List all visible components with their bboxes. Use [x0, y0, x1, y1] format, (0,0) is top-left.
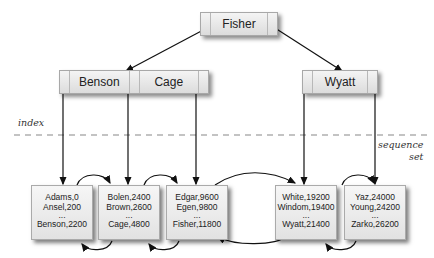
index-label: index: [18, 117, 44, 128]
sequence-block-4: White,19200 Windom,19400 ... Wyatt,21400: [275, 185, 337, 240]
ellipsis: ...: [276, 212, 336, 219]
sequence-block-2: Bolen,2400 Brown,2600 ... Cage,4800: [98, 185, 160, 240]
sequence-set-label: sequence set: [378, 139, 423, 163]
record: Yaz,24000: [345, 192, 405, 202]
sequence-block-1: Adams,0 Ansel,200 ... Benson,2200: [31, 185, 93, 240]
record: Zarko,26200: [345, 219, 405, 229]
index-key: Benson: [70, 71, 129, 93]
pointer-slot: [129, 71, 140, 93]
record: Benson,2200: [32, 219, 92, 229]
index-key: Cage: [140, 71, 199, 93]
ellipsis: ...: [32, 212, 92, 219]
pointer-slot: [198, 71, 208, 93]
record: Wyatt,21400: [276, 219, 336, 229]
record: Fisher,11800: [167, 219, 227, 229]
ellipsis: ...: [345, 212, 405, 219]
pointer-slot: [267, 13, 277, 35]
index-node-right: Wyatt: [302, 70, 378, 94]
pointer-slot: [303, 71, 313, 93]
index-node-left: Benson Cage: [59, 70, 209, 94]
sequence-set-label-line2: set: [378, 151, 423, 163]
index-key: Fisher: [211, 13, 267, 35]
pointer-slot: [201, 13, 211, 35]
pointer-slot: [60, 71, 70, 93]
pointer-slot: [367, 71, 377, 93]
index-root-node: Fisher: [200, 12, 278, 36]
record: Adams,0: [32, 192, 92, 202]
record: Edgar,9600: [167, 192, 227, 202]
sequence-set-label-line1: sequence: [378, 139, 423, 151]
sequence-block-5: Yaz,24000 Young,24200 ... Zarko,26200: [344, 185, 406, 240]
sequence-block-3: Edgar,9600 Egen,9800 ... Fisher,11800: [166, 185, 228, 240]
record: Bolen,2400: [99, 192, 159, 202]
ellipsis: ...: [167, 212, 227, 219]
index-key: Wyatt: [313, 71, 367, 93]
record: Cage,4800: [99, 219, 159, 229]
ellipsis: ...: [99, 212, 159, 219]
record: White,19200: [276, 192, 336, 202]
